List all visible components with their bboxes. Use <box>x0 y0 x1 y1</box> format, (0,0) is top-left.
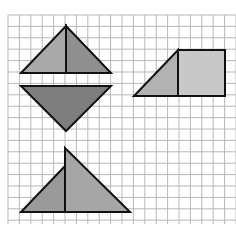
shape-composite-triangles <box>21 148 130 212</box>
trapezoid-rectangle <box>178 50 225 96</box>
shapes-layer <box>21 26 225 212</box>
shape-inverted-triangle <box>21 86 111 131</box>
grid-canvas <box>0 0 236 228</box>
inverted-triangle-whole <box>21 86 111 131</box>
composite-triangles-small-left-triangle <box>21 166 65 212</box>
shape-trapezoid <box>134 50 225 96</box>
composite-triangles-tall-right-triangle <box>65 148 130 212</box>
